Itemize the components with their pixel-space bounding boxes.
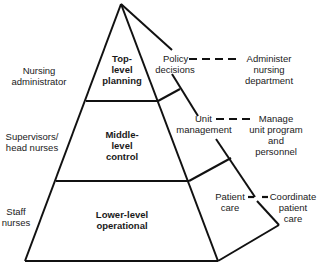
level-text: Top-	[100, 53, 144, 64]
role-text: Staff	[1, 206, 31, 217]
level-middle: Middle- level control	[100, 129, 144, 162]
function-patient-care: Patient care	[213, 191, 247, 213]
function-policy-decisions: Policy decisions	[152, 53, 198, 75]
role-staff-nurses: Staff nurses	[1, 206, 31, 228]
responsibility-text: Administer	[238, 53, 300, 64]
function-text: Policy	[152, 53, 198, 64]
responsibility-text: Coordinate	[268, 191, 318, 202]
responsibility-text: care	[268, 213, 318, 224]
responsibility-text: nursing	[238, 64, 300, 75]
role-text: administrator	[3, 76, 75, 87]
responsibility-text: patient	[268, 202, 318, 213]
responsibility-text: unit program	[245, 124, 307, 135]
role-supervisors: Supervisors/ head nurses	[2, 131, 62, 153]
role-text: Nursing	[3, 65, 75, 76]
role-text: head nurses	[2, 142, 62, 153]
side-edge-mid	[172, 74, 198, 116]
responsibility-coordinate: Coordinate patient care	[268, 191, 318, 224]
responsibility-text: department	[238, 75, 300, 86]
level-text: operational	[90, 220, 154, 231]
function-text: management	[176, 124, 232, 135]
level-text: control	[100, 151, 144, 162]
side-divider-middle	[189, 158, 231, 181]
role-text: nurses	[1, 217, 31, 228]
function-text: decisions	[152, 64, 198, 75]
responsibility-text: Manage	[245, 113, 307, 124]
level-text: level	[100, 64, 144, 75]
level-text: Middle-	[100, 129, 144, 140]
responsibility-administer: Administer nursing department	[238, 53, 300, 86]
responsibility-manage-unit: Manage unit program and personnel	[245, 113, 307, 157]
function-unit-management: Unit management	[176, 113, 232, 135]
responsibility-text: personnel	[245, 146, 307, 157]
level-text: level	[100, 140, 144, 151]
level-text: Lower-level	[90, 209, 154, 220]
function-text: Unit	[176, 113, 232, 124]
function-text: Patient	[213, 191, 247, 202]
level-text: planning	[100, 75, 144, 86]
level-lower: Lower-level operational	[90, 209, 154, 231]
side-divider-top	[158, 89, 180, 101]
function-text: care	[213, 202, 247, 213]
side-base	[218, 225, 279, 261]
responsibility-text: and	[245, 135, 307, 146]
role-text: Supervisors/	[2, 131, 62, 142]
role-nursing-administrator: Nursing administrator	[3, 65, 75, 87]
level-top: Top- level planning	[100, 53, 144, 86]
